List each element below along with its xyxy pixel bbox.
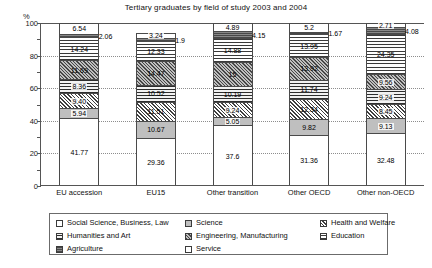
legend-item[interactable]: Service xyxy=(185,243,318,255)
bar-segment-callout-label: 2.06 xyxy=(99,32,113,39)
bar-segment-value-label: 9.24 xyxy=(225,107,241,114)
bar-segment[interactable]: 6.54 xyxy=(59,23,99,34)
bar-segment[interactable]: 11.74 xyxy=(289,80,329,99)
y-tick-mark xyxy=(37,186,41,187)
bar-segment[interactable]: 8.36 xyxy=(59,79,99,93)
legend-label: Agriculture xyxy=(67,245,103,253)
bar-segment[interactable]: 5.05 xyxy=(213,117,253,125)
bar-stack: 41.775.949.408.3611.6914.242.066.54 xyxy=(59,23,99,186)
legend-swatch-icon xyxy=(56,220,63,227)
bar-segment-value-label: 10.19 xyxy=(223,91,243,98)
category-label: EU accession xyxy=(41,188,118,197)
category-label: Other non-OECD xyxy=(347,188,424,197)
bar-stack: 32.489.138.459.249.5624.354.082.71 xyxy=(366,23,406,186)
legend-item[interactable]: Social Science, Business, Law xyxy=(56,217,186,229)
legend-swatch-icon xyxy=(185,246,192,253)
bar-segment[interactable]: 9.24 xyxy=(366,89,406,104)
bar-segment[interactable]: 15 xyxy=(213,62,253,86)
bar-segment[interactable]: 24.35 xyxy=(366,34,406,74)
bar-segment[interactable]: 32.48 xyxy=(366,133,406,186)
legend-item[interactable]: Education xyxy=(320,230,432,242)
bar-segment[interactable]: 9.82 xyxy=(289,119,329,135)
bar-segment-value-label: 13.95 xyxy=(299,43,319,50)
legend-label: Humanities and Art xyxy=(67,232,130,240)
bar-segment[interactable]: 13.95 xyxy=(289,34,329,57)
category-label: EU15 xyxy=(118,188,195,197)
legend-item[interactable]: Humanities and Art xyxy=(56,230,186,242)
bar-segment[interactable]: 11.51 xyxy=(136,102,176,121)
category-axis: EU accessionEU15Other transitionOther OE… xyxy=(41,188,424,202)
bar-segment[interactable]: 4.15 xyxy=(213,31,253,38)
y-tick-label: 80 xyxy=(18,52,38,61)
bar-segment[interactable]: 11.69 xyxy=(59,60,99,79)
bar-segment[interactable]: 14.47 xyxy=(136,61,176,85)
bar-segment-callout-label: 1.9 xyxy=(175,37,185,44)
bar-segment-value-label: 2.71 xyxy=(378,22,394,29)
bar-segment-value-label: 41.77 xyxy=(70,149,90,156)
bar-segment[interactable]: 9.24 xyxy=(213,102,253,117)
legend-column-2: ScienceEngineering, ManufacturingService xyxy=(185,217,318,256)
bar-segment-value-label: 5.05 xyxy=(225,118,241,125)
legend-label: Health and Welfare xyxy=(331,219,395,227)
bar-segment[interactable]: 5.2 xyxy=(289,23,329,31)
bar-segment-value-label: 6.54 xyxy=(71,25,87,32)
legend-label: Education xyxy=(331,232,364,240)
bar-segment[interactable]: 10.52 xyxy=(136,85,176,102)
y-tick-label: 40 xyxy=(18,117,38,126)
bar-segment[interactable]: 14.24 xyxy=(59,37,99,60)
bar-segment[interactable]: 37.6 xyxy=(213,125,253,186)
bar-stack: 31.369.8212.3411.7413.9213.951.675.2 xyxy=(289,23,329,186)
bar-segment[interactable]: 9.13 xyxy=(366,118,406,133)
bar-segment[interactable]: 14.88 xyxy=(213,38,253,62)
bar-segment[interactable]: 12.34 xyxy=(289,99,329,119)
bar-segment[interactable]: 5.94 xyxy=(59,108,99,118)
bar-segment-value-label: 9.56 xyxy=(378,79,394,86)
bar-segment[interactable]: 9.40 xyxy=(59,93,99,108)
legend-item[interactable]: Agriculture xyxy=(56,243,186,255)
bar-segment[interactable]: 2.06 xyxy=(59,34,99,37)
bar-segment[interactable]: 41.77 xyxy=(59,118,99,186)
bar-group[interactable]: 29.3610.6711.5110.5214.4712.331.93.24 xyxy=(136,23,176,186)
bar-segment[interactable]: 29.36 xyxy=(136,138,176,186)
bar-segment[interactable]: 1.67 xyxy=(289,32,329,35)
bar-segment-value-label: 37.6 xyxy=(225,153,241,160)
bar-segment-value-label: 14.24 xyxy=(70,46,90,53)
bar-stack: 37.65.059.2410.191514.884.154.89 xyxy=(213,23,253,186)
legend-label: Social Science, Business, Law xyxy=(67,219,169,227)
bar-segment-value-label: 8.45 xyxy=(378,108,394,115)
bar-group[interactable]: 32.489.138.459.249.5624.354.082.71 xyxy=(366,23,406,186)
bar-segment[interactable]: 3.24 xyxy=(136,33,176,38)
legend-swatch-icon xyxy=(56,233,63,240)
legend-label: Service xyxy=(196,245,221,253)
bar-segment[interactable]: 10.67 xyxy=(136,121,176,138)
legend-item[interactable]: Engineering, Manufacturing xyxy=(185,230,318,242)
bar-segment-value-label: 5.2 xyxy=(303,24,315,31)
legend-column-1: Social Science, Business, LawHumanities … xyxy=(56,217,186,256)
bar-segment[interactable]: 13.92 xyxy=(289,57,329,80)
bar-segment[interactable]: 10.19 xyxy=(213,86,253,102)
bar-segment-value-label: 9.82 xyxy=(301,124,317,131)
bar-segment[interactable]: 12.33 xyxy=(136,41,176,61)
bar-group[interactable]: 37.65.059.2410.191514.884.154.89 xyxy=(213,23,253,186)
legend-swatch-icon xyxy=(320,233,327,240)
legend-swatch-icon xyxy=(185,220,192,227)
bar-segment-value-label: 8.36 xyxy=(71,83,87,90)
y-tick-label: 60 xyxy=(18,84,38,93)
legend-swatch-icon xyxy=(185,233,192,240)
bar-segment-value-label: 11.51 xyxy=(146,108,165,115)
legend-item[interactable]: Science xyxy=(185,217,318,229)
bar-segment-value-label: 9.40 xyxy=(71,98,87,105)
plot-area: 41.775.949.408.3611.6914.242.066.5429.36… xyxy=(41,23,424,186)
bar-segment-value-label: 12.34 xyxy=(299,106,319,113)
legend-item[interactable]: Health and Welfare xyxy=(320,217,432,229)
legend-label: Science xyxy=(196,219,223,227)
bar-segment[interactable]: 31.36 xyxy=(289,135,329,186)
bar-group[interactable]: 31.369.8212.3411.7413.9213.951.675.2 xyxy=(289,23,329,186)
bar-segment-value-label: 32.48 xyxy=(376,157,396,164)
bar-segment[interactable]: 9.56 xyxy=(366,74,406,90)
bar-segment[interactable]: 4.89 xyxy=(213,23,253,31)
bar-segment[interactable]: 8.45 xyxy=(366,104,406,118)
bar-segment-value-label: 15 xyxy=(228,71,238,78)
bar-group[interactable]: 41.775.949.408.3611.6914.242.066.54 xyxy=(59,23,99,186)
bar-segment[interactable]: 2.71 xyxy=(366,23,406,27)
